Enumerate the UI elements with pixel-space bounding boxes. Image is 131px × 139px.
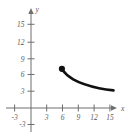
y-tick-label-12: 12	[17, 38, 25, 47]
x-tick-label-9: 9	[76, 113, 80, 122]
coordinate-plane-plot: 15 12 9 6 3 -3 -3 3 6 9 12 15 y x	[0, 0, 131, 139]
y-tick-label-15: 15	[17, 20, 25, 29]
y-tick-label-9: 9	[21, 55, 25, 64]
x-tick-label-3: 3	[44, 113, 49, 122]
y-tick-label-minus-3: -3	[19, 120, 25, 129]
y-axis-label: y	[35, 5, 40, 14]
x-tick-label-15: 15	[106, 113, 114, 122]
y-axis-arrowhead	[28, 8, 33, 14]
curve-closed-endpoint-dot	[59, 66, 65, 72]
x-axis-label: x	[120, 104, 125, 113]
chart-figure: 15 12 9 6 3 -3 -3 3 6 9 12 15 y x	[0, 0, 131, 139]
x-axis-arrowhead	[111, 105, 117, 110]
x-tick-label-6: 6	[61, 113, 65, 122]
y-tick-label-3: 3	[20, 87, 25, 96]
x-tick-label-minus-3: -3	[11, 113, 17, 122]
x-tick-label-12: 12	[90, 113, 98, 122]
plot-curve	[63, 70, 114, 90]
y-tick-label-6: 6	[21, 70, 25, 79]
